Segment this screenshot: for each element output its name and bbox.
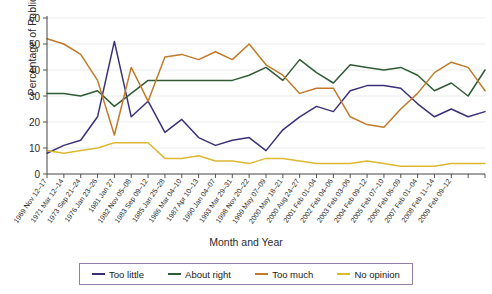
series-line-no-opinion — [47, 143, 485, 166]
legend-item-too-little: Too little — [92, 269, 144, 280]
chart-container: Percentage of Public Month and Year 0102… — [0, 0, 492, 294]
legend-swatch-about-right — [168, 273, 181, 275]
legend-swatch-no-opinion — [337, 273, 350, 275]
series-line-too-much — [47, 39, 485, 135]
legend-label-about-right: About right — [185, 269, 231, 280]
legend-item-too-much: Too much — [255, 269, 313, 280]
data-series-group — [47, 39, 485, 166]
legend-swatch-too-little — [92, 273, 105, 275]
y-tick-label: 50 — [29, 39, 41, 50]
legend-label-too-much: Too much — [272, 269, 313, 280]
series-line-too-little — [47, 41, 485, 153]
legend-swatch-too-much — [255, 273, 268, 275]
y-tick-label: 40 — [29, 65, 41, 76]
y-axis-ticks: 0102030405060 — [29, 13, 47, 180]
legend-item-about-right: About right — [168, 269, 231, 280]
legend-item-no-opinion: No opinion — [337, 269, 399, 280]
chart-legend: Too little About right Too much No opini… — [79, 263, 413, 285]
x-axis-tick-labels: 1969 Nov 12–171971 Mar 12–141973 Sep 21–… — [12, 178, 453, 226]
y-tick-label: 0 — [34, 169, 40, 180]
legend-label-no-opinion: No opinion — [354, 269, 399, 280]
y-tick-label: 30 — [29, 91, 41, 102]
legend-label-too-little: Too little — [109, 269, 144, 280]
y-tick-label: 10 — [29, 143, 41, 154]
y-tick-label: 20 — [29, 117, 41, 128]
y-tick-label: 60 — [29, 13, 41, 24]
line-chart-plot: 0102030405060 1969 Nov 12–171971 Mar 12–… — [0, 0, 492, 294]
x-axis-ticks — [47, 174, 485, 178]
series-line-about-right — [47, 60, 485, 107]
